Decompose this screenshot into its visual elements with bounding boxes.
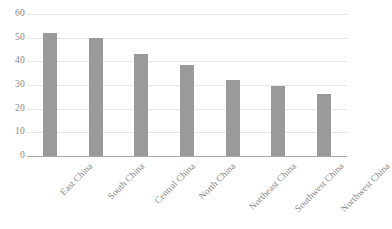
x-label-slot: East China [27,157,73,227]
bar-slot [73,14,119,156]
x-label-slot: Northeast China [210,157,256,227]
y-tick-label: 50 [1,33,25,43]
y-tick-label: 20 [1,104,25,114]
x-label-slot: Northwest China [301,157,347,227]
x-label-slot: Central China [118,157,164,227]
bar-slot [301,14,347,156]
bar-northwest-china[interactable] [317,94,331,156]
x-label-slot: South China [73,157,119,227]
x-label-slot: Southwest China [256,157,302,227]
y-tick-label: 30 [1,80,25,90]
bar-slot [210,14,256,156]
y-tick-label: 60 [1,9,25,19]
y-tick-label: 10 [1,127,25,137]
x-label-slot: North China [164,157,210,227]
y-axis: 60 50 40 30 20 10 0 [0,0,25,229]
y-tick-label: 40 [1,56,25,66]
y-tick-label: 0 [1,151,25,161]
bar-slot [256,14,302,156]
bar-slot [118,14,164,156]
bar-series [27,14,347,156]
bar-south-china[interactable] [89,38,103,156]
bar-central-china[interactable] [134,54,148,156]
x-tick-label-northwest-china: Northwest China [339,161,392,214]
bar-northeast-china[interactable] [226,80,240,156]
bar-slot [164,14,210,156]
bar-southwest-china[interactable] [271,86,285,156]
bar-east-china[interactable] [43,33,57,156]
x-axis: East China South China Central China Nor… [27,157,347,227]
bar-north-china[interactable] [180,65,194,156]
bar-slot [27,14,73,156]
